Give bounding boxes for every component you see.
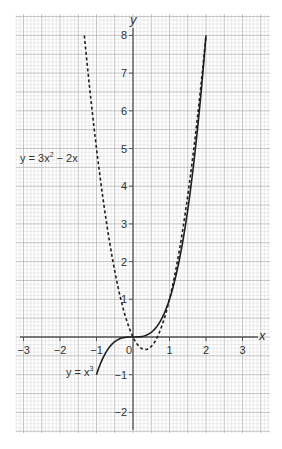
y-tick-label: 2 bbox=[121, 256, 127, 268]
x-tick-label: 1 bbox=[166, 344, 172, 356]
x-tick-label: −2 bbox=[54, 344, 67, 356]
y-tick-label: −2 bbox=[114, 406, 127, 418]
graph-chart: −3−2−10123−2−112345678 x y y = x3 y = 3x… bbox=[0, 0, 282, 449]
cubic-curve-label: y = x3 bbox=[66, 365, 94, 378]
y-tick-label: 4 bbox=[121, 180, 127, 192]
y-tick-label: 6 bbox=[121, 105, 127, 117]
y-tick-label: 7 bbox=[121, 67, 127, 79]
x-tick-label: −3 bbox=[17, 344, 30, 356]
x-tick-label: 2 bbox=[203, 344, 209, 356]
quadratic-curve-label: y = 3x2 − 2x bbox=[20, 151, 78, 164]
x-tick-label: −1 bbox=[90, 344, 103, 356]
x-tick-label: 0 bbox=[126, 344, 132, 356]
y-tick-label: −1 bbox=[114, 369, 127, 381]
y-tick-label: 8 bbox=[121, 29, 127, 41]
x-tick-label: 3 bbox=[239, 344, 245, 356]
y-tick-label: 5 bbox=[121, 143, 127, 155]
grid-paper bbox=[16, 14, 270, 433]
x-axis-label: x bbox=[258, 328, 266, 343]
y-tick-label: 3 bbox=[121, 218, 127, 230]
